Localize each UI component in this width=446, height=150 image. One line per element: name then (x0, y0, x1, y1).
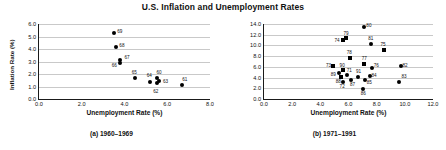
data-point-label: 66 (112, 64, 117, 69)
data-point-label: 82 (403, 64, 408, 69)
y-axis-tick-label: 5.0 (28, 34, 36, 40)
gridline (264, 24, 433, 25)
data-point-label: 89 (331, 72, 336, 77)
y-axis-tick-label: 1.0 (28, 84, 36, 90)
x-axis-title-a: Unemployment Rate (%) (39, 109, 210, 116)
data-point-label: 62 (153, 90, 158, 95)
y-axis-tick-label: 4.0 (253, 75, 261, 81)
x-axis-tick-label: 0.0 (35, 101, 43, 107)
data-point (118, 58, 122, 62)
gridline (264, 45, 433, 46)
data-point-label: 80 (366, 24, 371, 29)
data-point-label: 69 (117, 30, 122, 35)
y-axis-tick-label: 14.0 (250, 21, 261, 27)
y-axis-tick-label: 8.0 (253, 53, 261, 59)
y-axis-tick-label: 4.0 (28, 46, 36, 52)
data-point (133, 76, 137, 80)
data-point (180, 83, 184, 87)
chart-panel-b: Inflation Rate (%) Unemployment Rate (%)… (223, 18, 446, 150)
gridline (264, 88, 433, 89)
panel-caption-b: (b) 1971–1991 (223, 130, 446, 137)
x-axis-title-b: Unemployment Rate (%) (264, 109, 433, 116)
gridline (39, 62, 210, 63)
data-point-label: 79 (343, 32, 348, 37)
y-axis-tick-label: 6.0 (28, 21, 36, 27)
x-axis-tick-label: 8.0 (373, 101, 381, 107)
x-axis-tick-label: 12.0 (428, 101, 439, 107)
gridline (39, 37, 210, 38)
data-point (112, 31, 116, 35)
data-point-label: 85 (367, 81, 372, 86)
data-point-label: 84 (372, 74, 377, 79)
y-axis-tick-label: 3.0 (28, 59, 36, 65)
data-point-label: 71 (347, 69, 352, 74)
data-point (345, 73, 349, 77)
data-point-label: 63 (163, 80, 168, 85)
data-point (348, 56, 352, 60)
data-point-label: 60 (157, 71, 162, 76)
x-axis-tick-label: 10.0 (399, 101, 410, 107)
y-axis-tick-label: 6.0 (253, 64, 261, 70)
gridline (39, 49, 210, 50)
plot-wrap-b: Inflation Rate (%) Unemployment Rate (%)… (223, 18, 446, 126)
data-point-label: 74 (334, 39, 339, 44)
x-axis-tick-label: 2.0 (288, 101, 296, 107)
y-axis-title-a: Inflation Rate (%) (8, 39, 15, 90)
x-axis-tick-label: 0.0 (260, 101, 268, 107)
data-point-label: 87 (350, 83, 355, 88)
plot-wrap-a: Inflation Rate (%) Unemployment Rate (%)… (0, 18, 223, 126)
data-point (331, 64, 335, 68)
data-point-label: 67 (125, 55, 130, 60)
data-point (148, 80, 152, 84)
data-point-label: 78 (347, 51, 352, 56)
data-point-label: 68 (119, 44, 124, 49)
x-axis-tick-label: 4.0 (121, 101, 129, 107)
data-point (341, 68, 345, 72)
data-point (397, 80, 401, 84)
x-axis-tick-label: 4.0 (316, 101, 324, 107)
y-axis-tick-label: 12.0 (250, 32, 261, 38)
data-point (356, 75, 360, 79)
plot-area-a: Unemployment Rate (%) 0.01.02.03.04.05.0… (38, 24, 210, 100)
gridline (39, 87, 210, 88)
data-point-label: 86 (361, 92, 366, 97)
y-axis-tick-label: 2.0 (253, 85, 261, 91)
y-axis-tick-label: 10.0 (250, 42, 261, 48)
data-point-label: 76 (374, 64, 379, 69)
data-point (382, 48, 386, 52)
data-point-label: 73 (326, 63, 331, 68)
figure-container: U.S. Inflation and Unemployment Rates In… (0, 0, 446, 150)
data-point (362, 62, 366, 66)
data-point (157, 79, 161, 83)
data-point-label: 81 (368, 36, 373, 41)
data-point (114, 45, 118, 49)
page-title: U.S. Inflation and Unemployment Rates (0, 2, 446, 12)
data-point-label: 72 (340, 85, 345, 90)
chart-panel-a: Inflation Rate (%) Unemployment Rate (%)… (0, 18, 223, 150)
data-point (344, 36, 348, 40)
data-point-label: 77 (362, 57, 367, 62)
x-axis-tick-label: 2.0 (78, 101, 86, 107)
gridline (39, 74, 210, 75)
panel-caption-a: (a) 1960–1969 (0, 130, 223, 137)
data-point-label: 83 (402, 75, 407, 80)
data-point-label: 65 (132, 70, 137, 75)
x-axis-tick-label: 6.0 (163, 101, 171, 107)
plot-area-b: Unemployment Rate (%) 0.02.04.06.08.010.… (263, 24, 433, 100)
x-axis-tick-label: 8.0 (206, 101, 214, 107)
data-point-label: 64 (147, 74, 152, 79)
data-point (369, 42, 373, 46)
data-point-label: 91 (356, 70, 361, 75)
x-axis-tick-label: 6.0 (345, 101, 353, 107)
y-axis-tick-label: 2.0 (28, 71, 36, 77)
data-point-label: 90 (340, 64, 345, 69)
gridline (39, 24, 210, 25)
data-point-label: 61 (182, 78, 187, 83)
data-point-label: 75 (380, 43, 385, 48)
data-point-label: 88 (336, 79, 341, 84)
